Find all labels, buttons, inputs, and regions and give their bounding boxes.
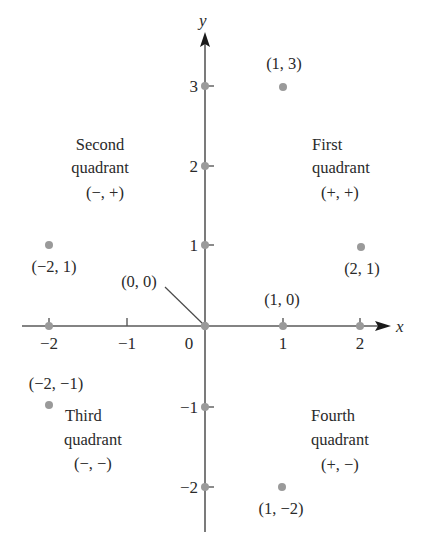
quadrant-label-fourth: Fourth quadrant (+, −) bbox=[311, 406, 369, 474]
origin-leader-line bbox=[165, 287, 203, 324]
x-axis-label: x bbox=[395, 317, 404, 336]
point-0-0 bbox=[201, 322, 209, 330]
label-minus2-minus1: (−2, −1) bbox=[29, 374, 83, 393]
y-tick-label-2: 2 bbox=[190, 157, 199, 176]
svg-text:(+, +): (+, +) bbox=[321, 183, 359, 202]
label-minus2-1: (−2, 1) bbox=[31, 257, 76, 276]
x-axis: x −2 −1 0 1 2 bbox=[22, 317, 404, 353]
axis-dot bbox=[201, 241, 209, 249]
svg-text:(+, −): (+, −) bbox=[321, 455, 359, 474]
label-1-3: (1, 3) bbox=[266, 54, 302, 73]
point-minus2-1 bbox=[45, 241, 53, 249]
quadrant-labels: Second quadrant (−, +) First quadrant (+… bbox=[64, 135, 370, 474]
svg-text:(−, +): (−, +) bbox=[86, 183, 124, 202]
axis-dot bbox=[201, 82, 209, 90]
x-tick-label-minus-1: −1 bbox=[118, 334, 136, 353]
quadrant-label-first: First quadrant (+, +) bbox=[312, 135, 370, 202]
point-1-minus2 bbox=[278, 483, 286, 491]
x-tick-label-minus-2: −2 bbox=[40, 334, 58, 353]
x-tick-label-zero: 0 bbox=[185, 334, 194, 353]
y-tick-label-minus-2: −2 bbox=[180, 478, 198, 497]
svg-text:Third: Third bbox=[65, 406, 102, 425]
axis-dot bbox=[201, 162, 209, 170]
quadrant-label-second: Second quadrant (−, +) bbox=[71, 135, 129, 202]
point-1-0 bbox=[279, 322, 287, 330]
svg-text:(−, −): (−, −) bbox=[74, 454, 112, 473]
quadrant-label-third: Third quadrant (−, −) bbox=[64, 406, 122, 473]
x-tick-label-2: 2 bbox=[356, 334, 365, 353]
svg-text:First: First bbox=[312, 135, 343, 154]
axis-dot bbox=[201, 403, 209, 411]
svg-text:quadrant: quadrant bbox=[312, 158, 370, 177]
svg-text:quadrant: quadrant bbox=[311, 430, 369, 449]
label-2-1: (2, 1) bbox=[344, 259, 380, 278]
y-axis-label: y bbox=[197, 11, 207, 30]
x-tick-label-1: 1 bbox=[279, 334, 288, 353]
coordinate-plane: x −2 −1 0 1 2 y 3 2 1 −1 −2 bbox=[0, 0, 439, 547]
svg-text:Second: Second bbox=[76, 135, 125, 154]
y-tick-label-3: 3 bbox=[190, 77, 199, 96]
axis-dot bbox=[356, 322, 364, 330]
svg-text:Fourth: Fourth bbox=[311, 406, 356, 425]
y-axis: y 3 2 1 −1 −2 bbox=[180, 11, 214, 532]
label-1-0: (1, 0) bbox=[264, 290, 300, 309]
y-tick-label-1: 1 bbox=[190, 236, 199, 255]
svg-text:quadrant: quadrant bbox=[71, 158, 129, 177]
point-1-3 bbox=[279, 83, 287, 91]
axis-dot bbox=[201, 483, 209, 491]
point-minus2-minus1 bbox=[45, 401, 53, 409]
label-0-0: (0, 0) bbox=[121, 272, 157, 291]
y-tick-label-minus-1: −1 bbox=[180, 398, 198, 417]
point-2-1 bbox=[357, 243, 365, 251]
svg-text:quadrant: quadrant bbox=[64, 430, 122, 449]
axis-dot bbox=[45, 322, 53, 330]
label-1-minus2: (1, −2) bbox=[258, 499, 303, 518]
